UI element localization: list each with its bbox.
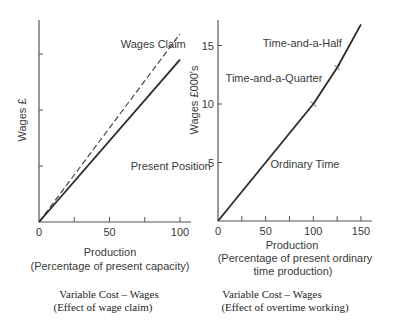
right-y-tick-label: 5	[208, 157, 214, 169]
series-present-position	[39, 60, 180, 222]
left-caption-title: Variable Cost – Wages	[59, 288, 158, 300]
right-x-axis-sublabel-2: time production)	[254, 265, 333, 277]
right-chart: 050100150 51015 Ordinary TimeTime-and-a-…	[188, 20, 373, 314]
series-wages-claim	[39, 34, 180, 222]
left-x-axis-label: Production	[84, 246, 137, 258]
right-y-tick-label: 10	[202, 98, 214, 110]
left-chart: 050100 Wages ClaimPresent Position Wages…	[16, 20, 211, 314]
right-x-axis-sublabel: (Percentage of present ordinary	[218, 252, 373, 264]
right-x-axis-label: Production	[266, 239, 319, 251]
annotation-present-position: Present Position	[131, 160, 211, 172]
annotation-ordinary-time: Ordinary Time	[270, 158, 339, 170]
left-y-axis-label: Wages £	[16, 98, 28, 141]
right-y-axis-label: Wages £000's	[188, 65, 200, 134]
annotation-time-and-a-half: Time-and-a-Half	[263, 37, 343, 49]
right-x-tick-label: 0	[215, 225, 221, 237]
right-x-tick-label: 50	[260, 225, 272, 237]
right-caption-subtitle: (Effect of overtime working)	[221, 301, 349, 314]
left-x-tick-label: 50	[103, 226, 115, 238]
charts-figure: 050100 Wages ClaimPresent Position Wages…	[0, 0, 394, 331]
left-x-tick-label: 100	[171, 226, 189, 238]
annotation-wages-claim: Wages Claim	[121, 38, 186, 50]
right-x-tick-label: 150	[352, 225, 370, 237]
left-caption-subtitle: (Effect of wage claim)	[53, 301, 152, 314]
right-y-tick-label: 15	[202, 40, 214, 52]
left-x-axis-sublabel: (Percentage of present capacity)	[31, 260, 190, 272]
x-marker	[311, 102, 316, 107]
left-x-tick-label: 0	[36, 226, 42, 238]
right-x-tick-label: 100	[304, 225, 322, 237]
right-caption-title: Variable Cost – Wages	[222, 288, 321, 300]
annotation-time-and-a-quarter: Time-and-a-Quarter	[226, 72, 323, 84]
